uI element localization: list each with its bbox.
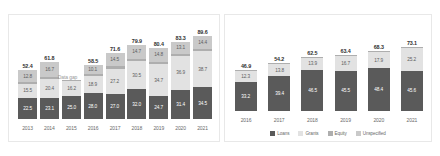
segment-unspecified: 10.1 [84, 65, 103, 74]
segment-grants: 13.9 [301, 58, 323, 70]
bar-stack: 14.42.038.734.5 [193, 36, 212, 119]
segment-loans: 24.7 [149, 96, 168, 119]
segment-value: 13.8 [275, 68, 284, 73]
segment-grants: 16.7 [335, 56, 357, 71]
x-label-2021: 2021 [401, 117, 423, 123]
segment-grants: 20.4 [40, 79, 59, 98]
legend-item-grants[interactable]: Grants [298, 131, 318, 136]
segment-unspecified: 14.5 [106, 53, 125, 66]
segment-value: 33.2 [242, 94, 251, 99]
bar-stack: 1.013.946.5 [301, 57, 323, 111]
bar-total-label: 83.3 [176, 35, 186, 41]
segment-grants: 12.3 [235, 71, 257, 82]
x-label-2017: 2017 [106, 125, 125, 131]
segment-grants: 25.2 [401, 48, 423, 70]
right-x-axis-labels: 201620172018201920202021 [235, 117, 423, 123]
bar-2014: 61.816.71.620.423.1 [40, 25, 59, 119]
legend-item-loans[interactable]: Loans [270, 131, 289, 136]
figure-root: 52.412.81.615.522.561.816.71.620.423.10.… [0, 0, 440, 156]
bar-stack: 13.11.936.931.4 [171, 42, 190, 119]
segment-value: 45.5 [341, 89, 350, 94]
bar-total-label: 58.5 [88, 58, 98, 64]
segment-value: 14.4 [198, 40, 207, 45]
right-chart-panel: 46.90.812.333.254.20.913.839.462.51.013.… [224, 14, 432, 142]
legend-swatch-icon [356, 131, 361, 136]
segment-value: 48.4 [374, 87, 383, 92]
x-label-2018: 2018 [301, 117, 323, 123]
bar-stack: 1.217.948.4 [368, 51, 390, 111]
segment-value: 14.5 [111, 57, 120, 62]
x-label-2015: 2015 [62, 125, 81, 131]
segment-unspecified: 14.4 [193, 36, 212, 49]
segment-value: 45.6 [407, 88, 416, 93]
bar-stack: 10.11.518.928.0 [84, 65, 103, 119]
bar-total-label: 62.5 [307, 50, 317, 56]
bar-2016: 46.90.812.333.2 [235, 25, 257, 111]
segment-value: 24.7 [154, 105, 163, 110]
bar-total-label: 46.9 [241, 63, 251, 69]
bar-stack: 12.81.615.522.5 [18, 70, 37, 119]
legend-swatch-icon [270, 131, 275, 136]
segment-value: 16.2 [67, 86, 76, 91]
segment-value: 16.7 [45, 67, 54, 72]
segment-value: 27.2 [111, 79, 120, 84]
segment-unspecified: 12.8 [18, 70, 37, 82]
segment-value: 25.2 [407, 57, 416, 62]
legend-label: Loans [277, 131, 289, 136]
bar-stack: 14.52.927.227.0 [106, 53, 125, 119]
segment-unspecified: 16.7 [40, 62, 59, 77]
segment-value: 13.1 [176, 46, 185, 51]
bar-stack: 1.116.745.5 [335, 55, 357, 111]
segment-loans: 34.5 [193, 87, 212, 119]
x-label-2013: 2013 [18, 125, 37, 131]
segment-loans: 23.1 [40, 98, 59, 119]
left-bar-group: 52.412.81.615.522.561.816.71.620.423.10.… [18, 25, 212, 119]
bar-2018: 79.914.72.730.532.0 [127, 25, 146, 119]
bar-2017: 71.614.52.927.227.0 [106, 25, 125, 119]
legend-item-unspecified[interactable]: Unspecified [356, 131, 386, 136]
segment-loans: 45.5 [335, 71, 357, 111]
segment-loans: 46.5 [301, 70, 323, 111]
legend-item-equity[interactable]: Equity [328, 131, 347, 136]
segment-value: 13.9 [308, 61, 317, 66]
segment-value: 12.3 [242, 74, 251, 79]
segment-value: 30.5 [132, 73, 141, 78]
bar-total-label: 89.6 [197, 29, 207, 35]
segment-value: 34.7 [154, 78, 163, 83]
segment-value: 22.5 [23, 106, 32, 111]
segment-value: 25.0 [67, 105, 76, 110]
bar-stack: 1.325.245.6 [401, 47, 423, 111]
segment-grants: 27.2 [106, 69, 125, 94]
segment-value: 16.7 [341, 61, 350, 66]
bar-2017: 54.20.913.839.4 [268, 25, 290, 111]
segment-grants: 36.9 [171, 56, 190, 90]
x-label-2018: 2018 [127, 125, 146, 131]
segment-value: 28.0 [89, 104, 98, 109]
bar-total-label: 80.4 [154, 41, 164, 47]
bar-2013: 52.412.81.615.522.5 [18, 25, 37, 119]
bar-total-label: 54.2 [274, 56, 284, 62]
bar-total-label: 52.4 [22, 63, 32, 69]
segment-loans: 28.0 [84, 93, 103, 119]
bar-2019: 63.41.116.745.5 [335, 25, 357, 111]
left-x-axis-labels: 201320142015201620172018201920202021 [18, 125, 212, 131]
bar-2020: 83.313.11.936.931.4 [171, 25, 190, 119]
segment-grants: 13.8 [268, 64, 290, 76]
segment-unspecified: 14.7 [127, 45, 146, 59]
segment-value: 46.5 [308, 88, 317, 93]
x-label-2017: 2017 [268, 117, 290, 123]
segment-value: 38.7 [198, 67, 207, 72]
bar-stack: 0.913.839.4 [268, 63, 290, 111]
segment-loans: 27.0 [106, 94, 125, 119]
segment-value: 10.1 [89, 67, 98, 72]
segment-loans: 48.4 [368, 68, 390, 111]
segment-value: 23.1 [45, 106, 54, 111]
segment-grants: 17.9 [368, 52, 390, 68]
legend-swatch-icon [298, 131, 303, 136]
segment-value: 36.9 [176, 70, 185, 75]
segment-loans: 25.0 [62, 96, 81, 119]
x-label-2020: 2020 [171, 125, 190, 131]
left-plot-area: 52.412.81.615.522.561.816.71.620.423.10.… [9, 15, 219, 141]
x-label-2020: 2020 [368, 117, 390, 123]
bar-stack: 0.812.333.2 [235, 70, 257, 111]
